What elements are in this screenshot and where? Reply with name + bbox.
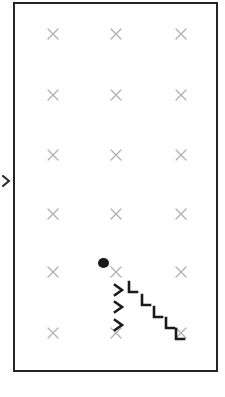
x-marker-icon (46, 265, 60, 279)
x-marker-icon (46, 27, 60, 41)
play-field[interactable] (13, 2, 218, 372)
x-marker-icon (109, 27, 123, 41)
x-marker-icon (109, 207, 123, 221)
game-canvas (0, 0, 225, 397)
player-dot[interactable] (98, 258, 109, 268)
x-marker-icon (174, 207, 188, 221)
x-marker-icon (174, 88, 188, 102)
x-marker-icon (46, 88, 60, 102)
x-marker-icon (174, 265, 188, 279)
chevron-corner-icon (172, 327, 188, 343)
x-marker-icon (46, 148, 60, 162)
x-marker-icon (109, 148, 123, 162)
x-marker-icon (46, 207, 60, 221)
x-marker-icon (109, 265, 123, 279)
x-marker-icon (109, 88, 123, 102)
x-marker-icon (174, 27, 188, 41)
left-edge-arrow-icon (2, 173, 12, 185)
x-marker-icon (46, 326, 60, 340)
x-marker-icon (174, 148, 188, 162)
chevron-right-icon (111, 299, 127, 315)
chevron-right-icon (111, 317, 127, 333)
